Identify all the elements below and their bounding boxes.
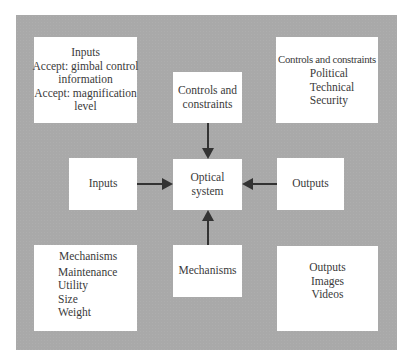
controls-detail-box: Controls and constraints Political Techn… (276, 37, 378, 123)
inputs-detail-line: level (74, 100, 96, 114)
optical-system-label: Optical (191, 171, 225, 185)
controls-detail-item: Political (310, 67, 355, 81)
inputs-label: Inputs (89, 177, 118, 191)
inputs-detail-line: information (58, 73, 112, 87)
inputs-detail-title: Inputs (71, 46, 100, 60)
arrow-up-icon (201, 210, 215, 245)
mechanisms-detail-item: Maintenance (58, 266, 117, 280)
outputs-detail-title: Outputs (309, 261, 345, 275)
outputs-detail-item: Images (311, 275, 344, 289)
mechanisms-detail-title: Mechanisms (58, 250, 117, 264)
outputs-detail-box: Outputs Images Videos (277, 246, 378, 331)
controls-detail-item: Technical (310, 81, 355, 95)
inputs-box: Inputs (69, 158, 137, 210)
mechanisms-detail-item: Size (58, 293, 78, 307)
inputs-detail-line: Accept: magnification (34, 87, 137, 101)
mechanisms-label: Mechanisms (178, 264, 236, 278)
outputs-box: Outputs (277, 158, 344, 210)
controls-detail-item: Security (310, 94, 355, 108)
mechanisms-box: Mechanisms (173, 245, 242, 297)
arrow-right-icon (137, 177, 173, 191)
controls-constraints-label: Controls and (178, 84, 237, 98)
mechanisms-detail-box: Mechanisms Maintenance Utility Size Weig… (34, 245, 137, 331)
controls-constraints-label: constraints (183, 98, 233, 112)
controls-detail-title: Controls and constraints (278, 53, 376, 67)
outputs-detail-item: Videos (312, 288, 344, 302)
outputs-label: Outputs (292, 177, 328, 191)
optical-system-label: system (192, 185, 224, 199)
mechanisms-detail-item: Weight (58, 306, 91, 320)
controls-constraints-box: Controls and constraints (173, 72, 242, 123)
controls-detail-list: Political Technical Security (300, 67, 355, 108)
inputs-detail-line: Accept: gimbal control (32, 60, 138, 74)
arrow-left-icon (242, 177, 277, 191)
inputs-detail-box: Inputs Accept: gimbal control informatio… (34, 37, 137, 123)
mechanisms-detail-item: Utility (58, 279, 88, 293)
arrow-down-icon (201, 123, 215, 159)
optical-system-box: Optical system (173, 159, 242, 210)
